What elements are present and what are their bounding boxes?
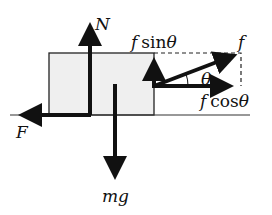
label-weight: mg — [102, 186, 129, 206]
label-f-sin: fsinθ — [129, 32, 177, 52]
label-friction: F — [15, 122, 29, 142]
label-applied: f — [236, 32, 247, 52]
applied-force-arrow — [154, 57, 230, 86]
label-f-cos: fcosθ — [198, 91, 249, 111]
free-body-diagram: N mg F f fsinθ θ fcosθ — [0, 0, 272, 215]
label-theta: θ — [201, 69, 211, 89]
block — [49, 53, 154, 115]
label-normal: N — [94, 14, 111, 34]
